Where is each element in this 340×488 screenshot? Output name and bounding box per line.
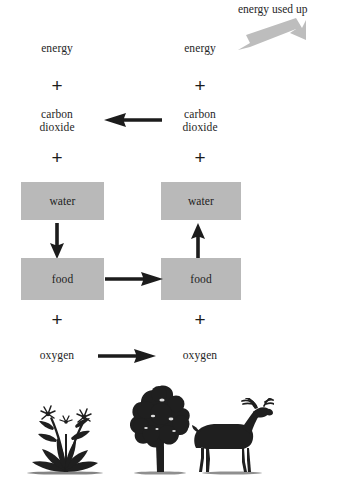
right-water-label: water	[188, 195, 214, 207]
deer-silhouette	[184, 398, 274, 482]
left-plus-3: +	[7, 310, 107, 329]
left-oxygen-label: oxygen	[7, 349, 107, 362]
left-food-box: food	[21, 258, 104, 300]
left-carbon-dioxide-label: carbon dioxide	[7, 108, 107, 134]
left-food-label: food	[52, 273, 73, 285]
right-plus-3: +	[150, 310, 250, 329]
diagram-canvas: energy used up energy + carbon dioxide +…	[0, 0, 340, 488]
left-water-box: water	[21, 182, 104, 220]
left-plus-2: +	[7, 148, 107, 167]
right-plus-2: +	[150, 148, 250, 167]
right-food-label: food	[190, 273, 211, 285]
left-energy-label: energy	[7, 42, 107, 55]
left-plus-1: +	[7, 76, 107, 95]
right-carbon-dioxide-label: carbon dioxide	[150, 108, 250, 134]
left-water-label: water	[49, 195, 75, 207]
carbon-dioxide-transfer-arrow	[104, 112, 162, 128]
energy-used-up-caption: energy used up	[238, 3, 307, 16]
flowering-plant-silhouette	[20, 392, 110, 482]
right-food-to-water-arrow	[189, 223, 207, 259]
left-water-to-food-arrow	[48, 223, 66, 259]
right-oxygen-label: oxygen	[150, 349, 250, 362]
food-transfer-arrow	[105, 271, 163, 287]
oxygen-transfer-arrow	[98, 348, 156, 364]
right-water-box: water	[161, 182, 241, 220]
right-energy-label: energy	[150, 42, 250, 55]
right-plus-1: +	[150, 76, 250, 95]
right-food-box: food	[161, 258, 241, 300]
